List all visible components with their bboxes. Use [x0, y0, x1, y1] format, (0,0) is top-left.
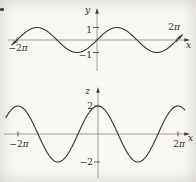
sin-graph-group: xy−2π2π1−1 — [8, 5, 191, 71]
trig-graphs-figure: xy−2π2π1−1xz−2π2π2−2 — [0, 0, 196, 182]
y-tick-label: −2 — [80, 157, 93, 167]
x-tick-label: −2π — [8, 43, 28, 53]
y-axis-label: z — [84, 86, 90, 96]
y-axis-arrow — [95, 8, 99, 14]
y-axis-label: y — [84, 5, 91, 15]
y-tick-label: 1 — [86, 25, 92, 35]
x-axis-label: x — [186, 40, 191, 50]
x-tick-label: −2π — [9, 139, 29, 149]
y-axis-arrow — [96, 87, 100, 93]
x-axis-label: x — [188, 133, 193, 143]
x-tick-label: 2π — [173, 139, 186, 149]
x-tick-label: 2π — [168, 22, 181, 32]
y-tick-label: −1 — [79, 50, 92, 60]
cos-graph-group: xz−2π2π2−2 — [4, 86, 193, 178]
trig-figure-page: xy−2π2π1−1xz−2π2π2−2 — [0, 0, 196, 182]
